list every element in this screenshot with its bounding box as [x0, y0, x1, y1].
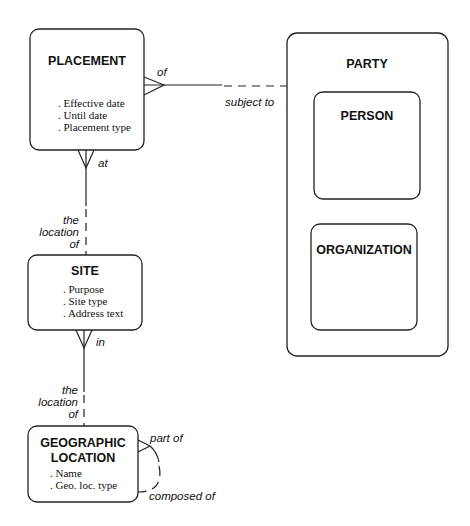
entity-placement-name: PLACEMENT: [48, 54, 126, 68]
crows-foot-icon: [144, 77, 164, 95]
attribute-name: . Name: [50, 467, 82, 479]
entity-site-name: SITE: [71, 264, 99, 278]
entity-organization-name: ORGANIZATION: [316, 243, 412, 257]
relationship-site-geographic-location[interactable]: in the location of: [38, 330, 105, 426]
crows-foot-icon: [138, 440, 150, 452]
attribute-purpose: . Purpose: [63, 283, 104, 295]
relationship-label-the: the: [63, 214, 79, 226]
relationship-label-composed-of: composed of: [149, 490, 217, 502]
relationship-label-location: location: [39, 226, 79, 238]
relationship-label-location: location: [38, 396, 78, 408]
relationship-placement-party[interactable]: of subject to: [144, 66, 287, 108]
relationship-label-the: the: [62, 384, 78, 396]
relationship-label-of: of: [69, 238, 80, 250]
relationship-label-in: in: [96, 336, 105, 348]
entity-site[interactable]: SITE . Purpose . Site type . Address tex…: [28, 255, 142, 330]
relationship-label-of: of: [68, 408, 79, 420]
attribute-geo-loc-type: . Geo. loc. type: [50, 479, 117, 491]
entity-geographic-location[interactable]: GEOGRAPHIC LOCATION . Name . Geo. loc. t…: [28, 426, 138, 502]
entity-geographic-location-name-line1: GEOGRAPHIC: [40, 436, 125, 450]
relationship-label-at: at: [98, 157, 108, 169]
entity-geographic-location-name-line2: LOCATION: [51, 451, 115, 465]
er-diagram: PARTY PERSON ORGANIZATION PLACEMENT . Ef…: [0, 0, 470, 526]
entity-placement[interactable]: PLACEMENT . Effective date . Until date …: [30, 29, 144, 150]
entity-party-name: PARTY: [346, 57, 388, 71]
relationship-placement-site[interactable]: at the location of: [39, 150, 108, 255]
relationship-label-subject-to: subject to: [225, 96, 275, 108]
attribute-site-type: . Site type: [63, 295, 107, 307]
relationship-label-part-of: part of: [149, 432, 184, 444]
attribute-placement-type: . Placement type: [58, 121, 131, 133]
entity-organization[interactable]: ORGANIZATION: [311, 224, 417, 330]
relationship-label-of: of: [157, 66, 168, 78]
attribute-address-text: . Address text: [63, 307, 123, 319]
entity-person-name: PERSON: [341, 109, 394, 123]
relationship-geographic-location-recursive[interactable]: part of composed of: [138, 432, 217, 502]
attribute-effective-date: . Effective date: [58, 97, 125, 109]
entity-person[interactable]: PERSON: [314, 92, 420, 199]
attribute-until-date: . Until date: [58, 109, 107, 121]
